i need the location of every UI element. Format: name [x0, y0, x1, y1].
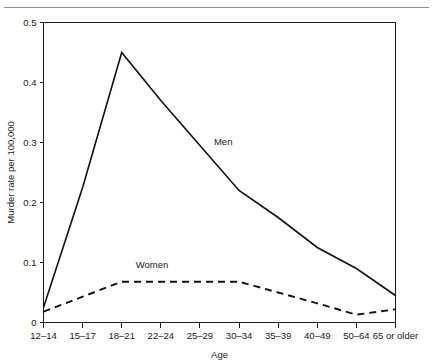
x-axis-title: Age — [211, 349, 228, 360]
axis-titles: AgeMurder rate per 100,000 — [5, 121, 228, 359]
series-line-women — [44, 282, 396, 315]
x-axis-tick-label: 50–64 — [343, 330, 369, 341]
y-axis-tick-label: 0.4 — [23, 77, 36, 88]
y-axis-title: Murder rate per 100,000 — [5, 121, 16, 223]
y-axis: 00.10.20.30.40.5 — [23, 17, 43, 328]
y-axis-tick-label: 0.5 — [23, 17, 36, 28]
y-axis-tick-label: 0.1 — [23, 257, 36, 268]
line-chart-plot: 00.10.20.30.40.5 12–1415–1718–2122–2425–… — [0, 0, 433, 364]
data-series-group — [44, 53, 396, 315]
y-axis-tick-label: 0.2 — [23, 197, 36, 208]
series-label-women: Women — [136, 259, 169, 270]
chart-figure: 00.10.20.30.40.5 12–1415–1718–2122–2425–… — [0, 0, 433, 364]
series-annotations: MenWomen — [136, 136, 233, 270]
y-axis-tick-label: 0 — [31, 317, 36, 328]
x-axis-tick-label: 18–21 — [109, 330, 135, 341]
x-axis-tick-label: 25–29 — [187, 330, 213, 341]
x-axis-tick-label: 15–17 — [69, 330, 95, 341]
y-axis-tick-label: 0.3 — [23, 137, 36, 148]
x-axis-tick-label: 35–39 — [265, 330, 291, 341]
x-axis-tick-label: 22–24 — [148, 330, 174, 341]
x-axis: 12–1415–1718–2122–2425–2930–3435–3940–49… — [30, 23, 418, 341]
series-label-men: Men — [214, 136, 232, 147]
x-axis-tick-label: 65 or older — [373, 330, 418, 341]
series-line-men — [44, 53, 396, 308]
x-axis-tick-label: 30–34 — [226, 330, 252, 341]
x-axis-tick-label: 40–49 — [304, 330, 330, 341]
x-axis-tick-label: 12–14 — [30, 330, 56, 341]
